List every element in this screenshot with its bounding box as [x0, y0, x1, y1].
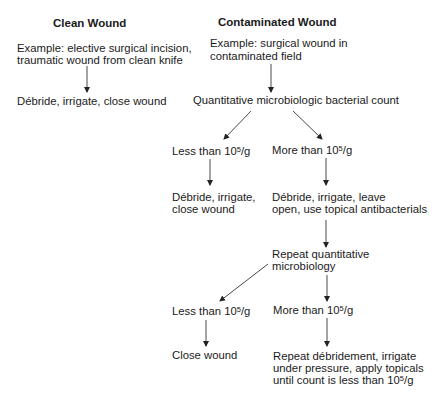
branch1-less-than: Less than 105/g [172, 144, 250, 160]
branch1-less-action-line2: close wound [172, 202, 235, 218]
contaminated-example-line2: contaminated field [210, 49, 302, 65]
arrow-repeat-to-less [220, 264, 268, 301]
branch2-more-action-line3: until count is less than 105/g [273, 373, 413, 389]
clean-action: Débride, irrigate, close wound [17, 94, 166, 110]
clean-example-line2: traumatic wound from clean knife [17, 53, 183, 69]
repeat-test-line2: microbiology [272, 259, 335, 275]
arrow-test-to-more [293, 111, 322, 139]
quantitative-test: Quantitative microbiologic bacterial cou… [193, 93, 399, 109]
clean-wound-title: Clean Wound [53, 16, 126, 32]
branch2-less-action: Close wound [172, 348, 237, 364]
branch2-more-than: More than 105/g [273, 303, 353, 319]
branch2-less-than: Less than 105/g [172, 304, 250, 320]
branch1-more-than: More than 105/g [272, 143, 352, 159]
wound-management-flowchart: Clean Wound Example: elective surgical i… [0, 0, 435, 396]
arrow-test-to-less [224, 111, 251, 139]
branch1-more-action-line2: open, use topical antibacterials [272, 202, 427, 218]
contaminated-wound-title: Contaminated Wound [218, 15, 337, 31]
